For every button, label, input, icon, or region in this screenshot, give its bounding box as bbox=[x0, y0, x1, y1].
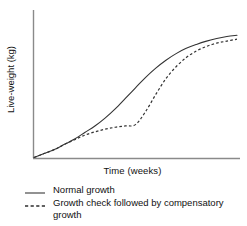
legend-sample-dashed-icon bbox=[24, 201, 46, 211]
y-axis-label-container: Live-weight (kg) bbox=[0, 0, 22, 158]
growth-curve-figure: Live-weight (kg) Time (weeks) Normal gro… bbox=[0, 0, 247, 226]
legend-item-compensatory-growth: Growth check followed by compensatory gr… bbox=[24, 197, 243, 220]
x-axis-label: Time (weeks) bbox=[0, 165, 247, 176]
series-normal-growth bbox=[34, 35, 237, 157]
legend-label-compensatory-growth: Growth check followed by compensatory gr… bbox=[53, 197, 243, 220]
legend-item-normal-growth: Normal growth bbox=[24, 184, 115, 198]
y-axis-label: Live-weight (kg) bbox=[6, 45, 17, 112]
series-compensatory-growth bbox=[34, 39, 237, 157]
legend-label-normal-growth: Normal growth bbox=[53, 184, 115, 196]
